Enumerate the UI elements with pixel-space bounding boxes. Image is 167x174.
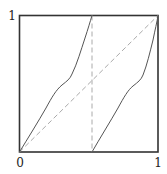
y-top-label: 1 <box>8 9 16 23</box>
right-branch-curve <box>92 16 158 153</box>
left-branch-curve <box>20 16 93 153</box>
diagonal-dashed-line <box>20 16 159 153</box>
function-plot: 1 0 1 <box>0 0 167 174</box>
x-right-label: 1 <box>154 156 162 170</box>
x-origin-label: 0 <box>16 156 24 170</box>
